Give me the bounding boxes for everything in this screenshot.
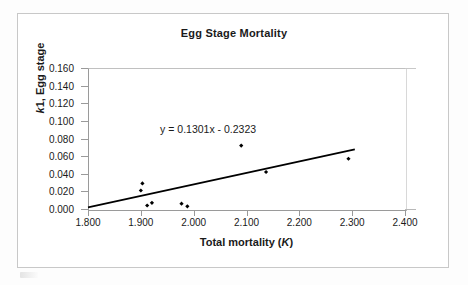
x-axis-tick-label: 2.300 [324, 217, 380, 228]
y-axis-tick-label: 0.120 [28, 98, 74, 109]
plot-top-rule-extension [405, 68, 416, 69]
data-point [140, 181, 144, 185]
y-axis-tick [81, 103, 88, 104]
data-layer [88, 68, 406, 210]
y-axis-tick-label: 0.080 [28, 133, 74, 144]
x-axis-tick-label: 1.800 [60, 217, 116, 228]
data-point [145, 203, 149, 207]
y-axis-tick-label: 0.020 [28, 186, 74, 197]
x-axis-tick [194, 210, 195, 216]
x-axis-tick [352, 210, 353, 216]
data-point [139, 188, 143, 192]
trendline [88, 149, 355, 207]
data-point [239, 143, 243, 147]
y-axis-tick [81, 174, 88, 175]
x-axis-title-italic: K [282, 236, 290, 248]
data-point [179, 202, 183, 206]
y-axis-tick-label: 0.140 [28, 80, 74, 91]
x-axis-tick [405, 210, 406, 216]
scan-artifact [20, 272, 38, 278]
x-axis-tick-label: 2.100 [219, 217, 275, 228]
y-axis-tick [81, 191, 88, 192]
x-axis-tick-label: 1.900 [113, 217, 169, 228]
y-axis-tick [81, 121, 88, 122]
x-axis-title: Total mortality (K) [88, 236, 405, 248]
x-axis-tick-label: 2.200 [271, 217, 327, 228]
y-axis-tick [81, 139, 88, 140]
data-point-group [139, 143, 351, 208]
x-axis-tick-label: 2.400 [377, 217, 433, 228]
y-axis-title: k1, Egg stage [34, 8, 46, 148]
x-axis-tick [299, 210, 300, 216]
data-point [185, 204, 189, 208]
scanned-page-background: Egg Stage Mortality k1, Egg stage Total … [0, 0, 468, 285]
plot-bottom-rule-extension [405, 209, 416, 210]
data-point [346, 157, 350, 161]
y-axis-tick-label: 0.100 [28, 115, 74, 126]
y-axis-tick-label: 0.160 [28, 63, 74, 74]
chart-frame: Egg Stage Mortality k1, Egg stage Total … [17, 13, 449, 268]
data-point [264, 170, 268, 174]
y-axis-tick [81, 68, 88, 69]
x-axis-tick-label: 2.000 [166, 217, 222, 228]
x-axis-tick [141, 210, 142, 216]
y-axis-tick [81, 156, 88, 157]
y-axis-tick-label: 0.000 [28, 204, 74, 215]
y-axis-tick-label: 0.040 [28, 168, 74, 179]
x-axis-tick [247, 210, 248, 216]
chart-title: Egg Stage Mortality [18, 27, 450, 39]
y-axis-tick [81, 209, 88, 210]
data-point [150, 201, 154, 205]
trendline-path [88, 149, 355, 207]
x-axis-tick [88, 210, 89, 216]
x-axis-title-plain: Total mortality [200, 236, 275, 248]
y-axis-tick-label: 0.060 [28, 151, 74, 162]
y-axis-tick [81, 86, 88, 87]
